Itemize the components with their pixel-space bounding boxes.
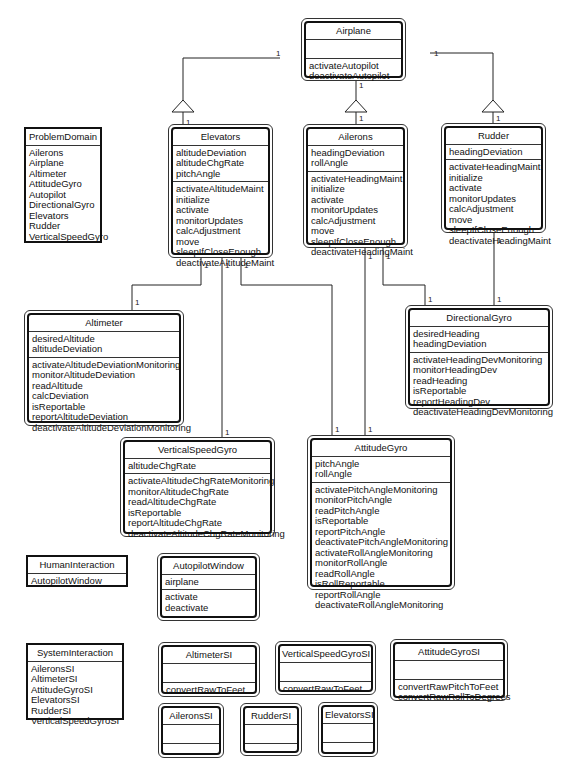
- service: calcAdjustment: [176, 226, 265, 237]
- attributes-section: altitudeChgRate: [125, 459, 270, 475]
- attributes-section: headingDeviation: [446, 145, 541, 161]
- attributes-section: airplane: [162, 575, 255, 591]
- class-ailerons-si[interactable]: AileronsSI: [158, 703, 224, 758]
- services-section: activateAutopilot deactivateAutopilot: [306, 59, 401, 84]
- attributes-section: [395, 661, 503, 680]
- class-name: VerticalSpeedGyro: [125, 442, 270, 459]
- attribute: headingDeviation: [449, 147, 538, 158]
- service: calcDeviation: [32, 391, 176, 402]
- service: deactivatePitchAngleMonitoring: [315, 537, 447, 548]
- class-airplane[interactable]: Airplane activateAutopilot deactivateAut…: [301, 18, 406, 81]
- service: convertRawToFeet: [166, 685, 252, 696]
- package-item: VerticalSpeedGyroSI: [31, 716, 119, 727]
- service: reportAltitudeDeviation: [32, 412, 176, 423]
- class-altimeter[interactable]: Altimeter desiredAltitude altitudeDeviat…: [24, 310, 184, 426]
- gen-spec-triangle-ailerons: [345, 100, 367, 112]
- service: monitorAltitudeDeviation: [32, 370, 176, 381]
- service: deactivateAltitudeChgRateMonitoring: [128, 529, 267, 540]
- service: isReportable: [413, 386, 545, 397]
- service: deactivateHeadingDevMonitoring: [413, 407, 545, 418]
- package-problem-domain[interactable]: ProblemDomain Ailerons Airplane Altimete…: [24, 127, 102, 243]
- package-item: AutopilotWindow: [31, 576, 123, 587]
- multiplicity-label: 1: [428, 295, 432, 304]
- class-name: RudderSI: [245, 708, 297, 725]
- service: deactivateAltitudeMaint: [176, 258, 265, 269]
- class-rudder-si[interactable]: RudderSI: [240, 703, 302, 756]
- class-name: Elevators: [173, 129, 268, 146]
- service: monitorRollAngle: [315, 558, 447, 569]
- attributes-section: [280, 663, 371, 682]
- multiplicity-label: 1: [135, 298, 139, 307]
- services-section: activateHeadingMaint initialize activate…: [308, 172, 403, 260]
- class-name: Rudder: [446, 128, 541, 145]
- class-name: AltimeterSI: [163, 647, 255, 664]
- attribute: rollAngle: [315, 469, 447, 480]
- package-name: HumanInteraction: [28, 557, 126, 574]
- attribute: altitudeChgRate: [128, 461, 267, 472]
- service: initialize: [311, 184, 400, 195]
- attributes-section: [245, 725, 297, 744]
- attributes-section: pitchAngle rollAngle: [312, 457, 450, 483]
- gen-spec-triangle-rudder: [482, 100, 504, 112]
- class-name: Airplane: [306, 23, 401, 40]
- package-item: Rudder: [29, 221, 97, 232]
- services-section: [245, 744, 297, 762]
- service: activate: [165, 592, 252, 603]
- service: activateAltitudeChgRateMonitoring: [128, 476, 267, 487]
- class-attitude-gyro[interactable]: AttitudeGyro pitchAngle rollAngle activa…: [307, 435, 455, 590]
- gen-spec-triangle-elevators: [172, 100, 194, 112]
- package-system-interaction[interactable]: SystemInteraction AileronsSI AltimeterSI…: [26, 643, 124, 720]
- class-name: AttitudeGyroSI: [395, 644, 503, 661]
- services-section: [323, 743, 373, 761]
- services-section: [163, 744, 219, 762]
- services-section: convertRawPitchToFeet convertRawRollToDe…: [395, 680, 503, 705]
- service: reportAltitudeChgRate: [128, 518, 267, 529]
- package-item: VerticalSpeedGyro: [29, 232, 97, 243]
- package-item: AttitudeGyro: [29, 179, 97, 190]
- class-attitude-gyro-si[interactable]: AttitudeGyroSI convertRawPitchToFeet con…: [390, 639, 508, 701]
- class-elevators-si[interactable]: ElevatorsSI: [318, 702, 378, 757]
- class-autopilot-window[interactable]: AutopilotWindow airplane activate deacti…: [157, 553, 260, 621]
- services-section: activateAltitudeChgRateMonitoring monito…: [125, 474, 270, 541]
- package-item: Airplane: [29, 158, 97, 169]
- service: convertRawToFeet: [283, 684, 368, 695]
- package-item: DirectionalGyro: [29, 200, 97, 211]
- class-rudder[interactable]: Rudder headingDeviation activateHeadingM…: [441, 123, 546, 233]
- service: isReportable: [315, 516, 447, 527]
- class-name: Altimeter: [29, 315, 179, 332]
- class-ailerons[interactable]: Ailerons headingDeviation rollAngle acti…: [303, 124, 408, 248]
- service: deactivateAutopilot: [309, 71, 398, 82]
- attributes-section: altitudeDeviation altitudeChgRate pitchA…: [173, 146, 268, 183]
- class-altimeter-si[interactable]: AltimeterSI convertRawToFeet: [158, 642, 260, 697]
- services-section: activateAltitudeMaint initialize activat…: [173, 182, 268, 270]
- class-name: Ailerons: [308, 129, 403, 146]
- class-vertical-speed-gyro-si[interactable]: VerticalSpeedGyroSI convertRawToFeet: [275, 641, 376, 695]
- attributes-section: [323, 724, 373, 743]
- attributes-section: [306, 40, 401, 59]
- services-section: convertRawToFeet: [163, 683, 255, 698]
- class-vertical-speed-gyro[interactable]: VerticalSpeedGyro altitudeChgRate activa…: [120, 437, 275, 537]
- service: monitorUpdates: [311, 205, 400, 216]
- attributes-section: headingDeviation rollAngle: [308, 146, 403, 172]
- service: deactivateHeadingMaint: [311, 247, 400, 258]
- multiplicity-label: 1: [225, 428, 229, 437]
- package-item: ElevatorsSI: [31, 695, 119, 706]
- class-elevators[interactable]: Elevators altitudeDeviation altitudeChgR…: [168, 124, 273, 258]
- service: deactivateAltitudeDeviationMonitoring: [32, 423, 176, 434]
- service: activate: [449, 183, 538, 194]
- class-name: VerticalSpeedGyroSI: [280, 646, 371, 663]
- attribute: rollAngle: [311, 158, 400, 169]
- service: activateHeadingMaint: [449, 162, 538, 173]
- services-section: convertRawToFeet: [280, 682, 371, 697]
- package-human-interaction[interactable]: HumanInteraction AutopilotWindow: [26, 555, 128, 587]
- service: readAltitudeChgRate: [128, 497, 267, 508]
- services-section: activateHeadingDevMonitoring monitorHead…: [410, 353, 548, 420]
- attributes-section: [163, 725, 219, 744]
- services-section: activateHeadingMaint initialize activate…: [446, 160, 541, 248]
- class-name: AttitudeGyro: [312, 440, 450, 457]
- class-name: AutopilotWindow: [162, 558, 255, 575]
- service: deactivateRollAngleMonitoring: [315, 600, 447, 611]
- multiplicity-label: 1: [359, 114, 363, 123]
- multiplicity-label: 1: [276, 49, 280, 58]
- class-directional-gyro[interactable]: DirectionalGyro desiredHeading headingDe…: [405, 305, 553, 409]
